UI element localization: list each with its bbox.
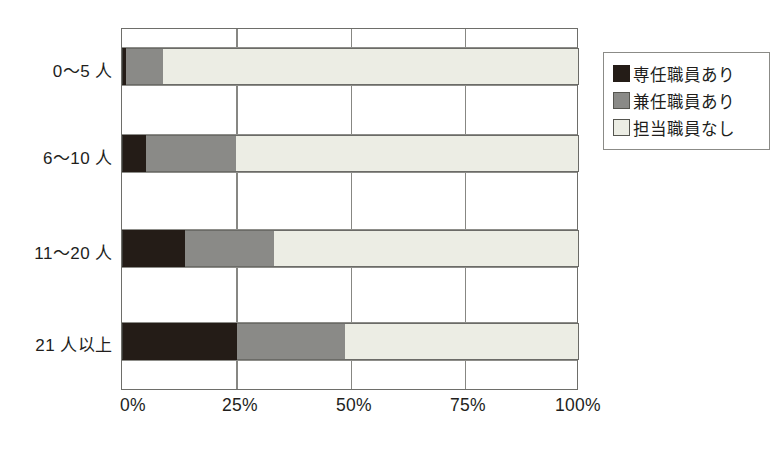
legend-item-1: 兼任職員あり <box>613 87 761 114</box>
bar-segment-0-2 <box>163 48 579 85</box>
bar-segment-2-0 <box>122 230 185 267</box>
y-axis-label-3: 21 人以上 <box>1 331 113 356</box>
bar-segment-1-2 <box>236 135 579 172</box>
bar-segment-1-0 <box>122 135 146 172</box>
legend-item-2: 担当職員なし <box>613 114 761 141</box>
legend-label-1: 兼任職員あり <box>633 89 735 113</box>
bar-segment-1-1 <box>146 135 236 172</box>
bar-segment-3-2 <box>345 323 579 360</box>
legend-swatch-icon-0 <box>613 65 630 82</box>
bar-segment-3-0 <box>122 323 237 360</box>
y-axis-label-2: 11〜20 人 <box>1 239 113 264</box>
bar-row-3 <box>122 323 579 360</box>
y-axis-labels: 0〜5 人 6〜10 人 11〜20 人 21 人以上 <box>0 0 113 450</box>
band-separator-5 <box>122 267 577 268</box>
stacked-bar-chart: 0〜5 人 6〜10 人 11〜20 人 21 人以上 0% 25% 50% 7… <box>0 0 774 450</box>
bar-segment-0-1 <box>126 48 163 85</box>
band-separator-3 <box>122 172 577 173</box>
y-axis-label-1: 6〜10 人 <box>1 144 113 169</box>
bar-segment-3-1 <box>237 323 345 360</box>
legend-item-0: 専任職員あり <box>613 60 761 87</box>
legend-swatch-icon-1 <box>613 92 630 109</box>
x-axis-label-0: 0% <box>120 395 146 416</box>
band-separator-1 <box>122 85 577 86</box>
x-axis-label-1: 25% <box>222 395 258 416</box>
x-axis-label-4: 100% <box>555 395 601 416</box>
legend-label-0: 専任職員あり <box>633 62 735 86</box>
bar-segment-2-1 <box>185 230 274 267</box>
plot-area <box>121 28 578 390</box>
y-axis-label-0: 0〜5 人 <box>1 57 113 82</box>
x-axis-labels: 0% 25% 50% 75% 100% <box>0 395 774 425</box>
chart-legend: 専任職員あり 兼任職員あり 担当職員なし <box>603 52 770 150</box>
bar-row-0 <box>122 48 579 85</box>
legend-label-2: 担当職員なし <box>633 116 735 140</box>
band-separator-7 <box>122 360 577 361</box>
x-axis-label-2: 50% <box>336 395 372 416</box>
x-axis-label-3: 75% <box>450 395 486 416</box>
bar-row-1 <box>122 135 579 172</box>
legend-swatch-icon-2 <box>613 119 630 136</box>
bar-row-2 <box>122 230 579 267</box>
bar-segment-2-2 <box>274 230 579 267</box>
